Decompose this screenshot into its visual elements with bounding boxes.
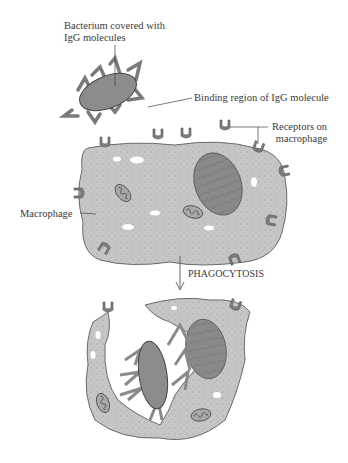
label-macrophage: Macrophage (20, 208, 72, 220)
macrophage-cell-after (86, 298, 250, 439)
label-phagocytosis: PHAGOCYTOSIS (188, 268, 264, 280)
label-bacterium: Bacterium covered with IgG molecules (64, 20, 165, 44)
macrophage-cell-before (74, 120, 290, 265)
label-binding-region: Binding region of IgG molecule (194, 92, 329, 104)
bacterium-with-igg (64, 45, 142, 122)
phagocytosis-diagram (0, 0, 348, 463)
label-receptors: Receptors on macrophage (272, 121, 327, 145)
